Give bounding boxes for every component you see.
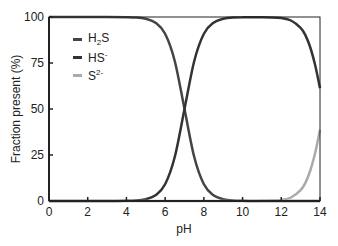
y-axis-title: Fraction present (%) <box>9 55 23 164</box>
chart-legend: H2S HS- S2- <box>73 30 109 84</box>
legend-item-hs: HS- <box>73 48 109 66</box>
x-tick-label: 4 <box>123 205 130 219</box>
legend-swatch-s2 <box>73 74 82 77</box>
series-line-s2 <box>49 130 320 201</box>
x-tick-label: 10 <box>236 205 250 219</box>
x-tick-label: 6 <box>162 205 169 219</box>
x-tick-label: 14 <box>313 205 327 219</box>
x-axis-title: pH <box>176 222 191 236</box>
x-tick-label: 12 <box>275 205 289 219</box>
legend-label-h2s: H2S <box>88 31 109 47</box>
x-tick-label: 0 <box>46 205 53 219</box>
legend-label-s2: S2- <box>88 68 103 83</box>
x-tick-label: 8 <box>201 205 208 219</box>
y-tick-label: 75 <box>31 56 45 70</box>
x-tick-label: 2 <box>84 205 91 219</box>
legend-item-s2: S2- <box>73 66 109 84</box>
y-tick-label: 50 <box>31 102 45 116</box>
y-tick-label: 25 <box>31 148 45 162</box>
y-tick-label: 0 <box>37 194 44 208</box>
y-tick-label: 100 <box>24 10 44 24</box>
legend-swatch-h2s <box>73 38 82 41</box>
legend-label-hs: HS- <box>88 50 107 65</box>
legend-item-h2s: H2S <box>73 30 109 48</box>
species-distribution-chart: 02468101214 0255075100 pH Fraction prese… <box>0 0 338 246</box>
legend-swatch-hs <box>73 56 82 59</box>
